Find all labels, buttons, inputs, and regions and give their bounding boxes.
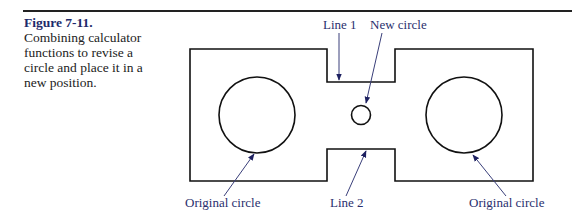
label-original-circle-right: Original circle xyxy=(469,195,545,210)
diagram: Line 1 New circle Original circle Line 2… xyxy=(0,0,583,223)
label-original-circle-left: Original circle xyxy=(185,195,261,210)
new-circle xyxy=(352,106,371,125)
new-circle-leader xyxy=(366,33,382,103)
original-circle-right-leader xyxy=(473,155,506,196)
line2-leader xyxy=(346,151,366,196)
label-line1: Line 1 xyxy=(323,17,357,32)
original-circle-left-leader xyxy=(224,154,254,196)
label-new-circle: New circle xyxy=(370,17,427,32)
label-line2: Line 2 xyxy=(330,195,364,210)
original-circle-right xyxy=(426,77,502,153)
original-circle-left xyxy=(219,77,295,153)
